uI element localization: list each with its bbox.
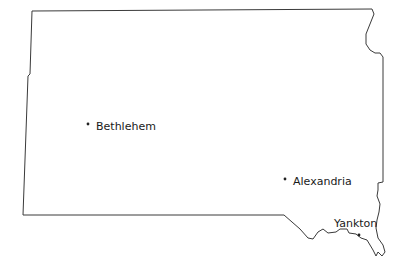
map-canvas: Bethlehem Alexandria Yankton bbox=[0, 0, 406, 264]
city-dot-yankton bbox=[358, 234, 361, 237]
city-label-alexandria: Alexandria bbox=[293, 176, 352, 187]
city-dot-bethlehem bbox=[87, 123, 90, 126]
state-outline bbox=[23, 9, 385, 256]
city-dot-alexandria bbox=[284, 178, 287, 181]
city-label-yankton: Yankton bbox=[334, 218, 377, 229]
city-label-bethlehem: Bethlehem bbox=[96, 121, 156, 132]
